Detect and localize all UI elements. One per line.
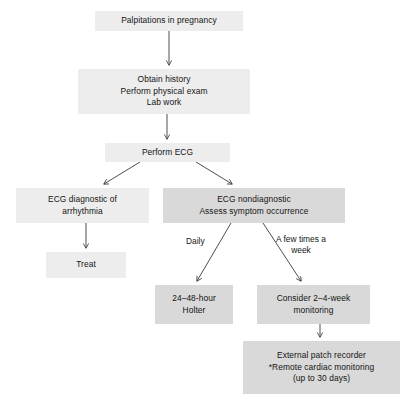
node-label-line: *Remote cardiac monitoring	[269, 362, 375, 373]
node-label-line: ECG diagnostic of	[48, 194, 117, 205]
node-treat: Treat	[46, 252, 126, 278]
node-label-line: Consider 2–4-week	[277, 293, 351, 304]
node-label-line: Perform ECG	[142, 147, 193, 158]
node-ecg-nondiagnostic-assess-symptoms: ECG nondiagnosticAssess symptom occurren…	[163, 188, 345, 223]
node-perform-ecg: Perform ECG	[105, 143, 230, 162]
node-label-line: Holter	[183, 305, 206, 316]
edge-ecg-to-diagnostic	[104, 162, 140, 184]
node-label-line: Treat	[76, 259, 96, 270]
node-label-line: Perform physical exam	[121, 86, 208, 97]
node-label-line: arrhythmia	[62, 206, 102, 217]
edge-nondiagnostic-to-holter	[197, 223, 231, 281]
node-label-line: Obtain history	[138, 74, 191, 85]
node-24-48-hour-holter: 24–48-hourHolter	[155, 285, 233, 324]
node-label-line: Lab work	[147, 97, 182, 108]
flowchart-diagram: Palpitations in pregnancyObtain historyP…	[0, 0, 413, 413]
node-label-line: Palpitations in pregnancy	[121, 15, 217, 26]
node-ecg-diagnostic-of-arrhythmia: ECG diagnostic ofarrhythmia	[16, 188, 149, 223]
edge-label-a-few-times-a-week: A few times a week	[272, 234, 330, 256]
edge-label-daily: Daily	[186, 236, 205, 247]
edge-ecg-to-nondiagnostic	[196, 162, 232, 184]
node-label-line: External patch recorder	[277, 350, 366, 361]
node-label-line: 24–48-hour	[172, 293, 216, 304]
node-consider-2-4-week-monitoring: Consider 2–4-weekmonitoring	[257, 285, 370, 324]
node-label-line: monitoring	[294, 305, 334, 316]
node-label-line: ECG nondiagnostic	[217, 194, 291, 205]
node-palpitations-in-pregnancy: Palpitations in pregnancy	[95, 11, 243, 31]
node-label-line: (up to 30 days)	[293, 373, 350, 384]
node-label-line: Assess symptom occurrence	[199, 206, 308, 217]
node-external-patch-recorder: External patch recorder*Remote cardiac m…	[243, 341, 400, 394]
node-obtain-history-workup: Obtain historyPerform physical examLab w…	[78, 69, 250, 114]
